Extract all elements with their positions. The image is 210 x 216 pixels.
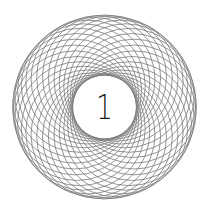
rosette-emblem: 1: [0, 0, 210, 216]
emblem-numeral: 1: [89, 86, 121, 128]
